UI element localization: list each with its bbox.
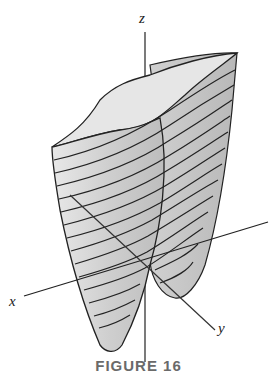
x-axis-label: x: [9, 293, 16, 310]
y-axis-label: y: [218, 320, 225, 337]
surface-plot: [0, 0, 277, 388]
z-axis-label: z: [139, 10, 145, 27]
figure-caption: FIGURE 16: [0, 357, 277, 374]
